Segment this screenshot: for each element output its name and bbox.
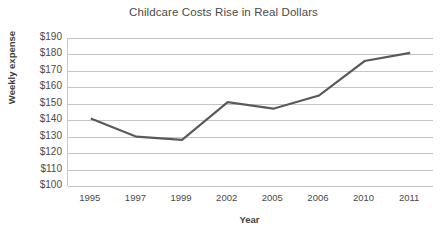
x-axis-tick-label: 1995 xyxy=(79,192,100,203)
x-axis-tick-label: 2006 xyxy=(307,192,328,203)
y-axis-tick-label: $110 xyxy=(4,163,62,174)
x-axis-title: Year xyxy=(67,214,432,225)
data-series-line xyxy=(68,38,433,186)
y-axis-tick-label: $190 xyxy=(4,31,62,42)
x-axis-tick-label: 1999 xyxy=(170,192,191,203)
chart-container: Childcare Costs Rise in Real Dollars Wee… xyxy=(0,0,447,237)
x-axis-tick-label: 2005 xyxy=(262,192,283,203)
y-axis-tick-label: $140 xyxy=(4,113,62,124)
y-axis-tick-label: $160 xyxy=(4,80,62,91)
chart-title: Childcare Costs Rise in Real Dollars xyxy=(0,6,447,18)
x-axis-tick-label: 1997 xyxy=(125,192,146,203)
series-weekly-expense xyxy=(91,53,410,140)
x-axis-tick-label: 2010 xyxy=(353,192,374,203)
y-axis-tick-label: $120 xyxy=(4,146,62,157)
y-axis-tick-label: $170 xyxy=(4,64,62,75)
x-axis-tick-label: 2002 xyxy=(216,192,237,203)
x-axis-tick-label: 2011 xyxy=(399,192,419,203)
y-axis-tick-label: $180 xyxy=(4,47,62,58)
y-axis-tick-label: $150 xyxy=(4,97,62,108)
y-axis-tick-label: $130 xyxy=(4,130,62,141)
gridline xyxy=(68,186,433,187)
plot-area xyxy=(67,38,432,186)
y-axis-tick-label: $100 xyxy=(4,179,62,190)
y-axis-tick-labels: $190$180$170$160$150$140$130$120$110$100 xyxy=(0,0,62,237)
